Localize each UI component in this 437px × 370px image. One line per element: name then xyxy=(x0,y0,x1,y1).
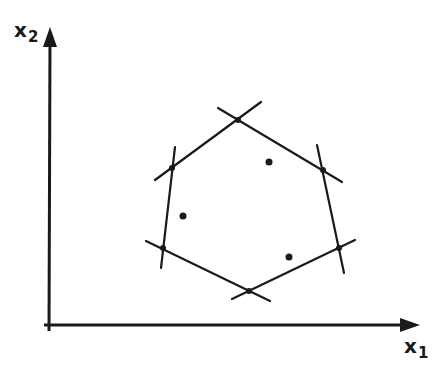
y-axis-label-main: x xyxy=(14,18,27,42)
vertex-top xyxy=(235,117,241,123)
vertex-upper-left xyxy=(169,165,175,171)
vertex-bottom xyxy=(246,288,252,294)
interior-point xyxy=(266,159,273,166)
y-axis-line xyxy=(49,39,50,331)
x-axis-arrowhead-icon xyxy=(400,318,420,332)
vertex-lower-left xyxy=(160,245,166,251)
y-axis-arrowhead-icon xyxy=(43,27,57,47)
interior-point xyxy=(286,254,293,261)
hexagon-edges xyxy=(146,102,355,301)
y-axis-label-subscript: 2 xyxy=(28,28,38,46)
x-axis-label-subscript: 1 xyxy=(418,344,428,362)
interior-points xyxy=(180,159,293,261)
x-axis-label: x1 xyxy=(404,334,428,358)
hexagon-vertices xyxy=(160,117,342,294)
hexagon-edge xyxy=(317,145,344,273)
x-axis-label-main: x xyxy=(404,334,417,358)
y-axis-label: x2 xyxy=(14,18,38,42)
interior-point xyxy=(180,213,187,220)
diagram-canvas xyxy=(0,0,437,370)
vertex-upper-right xyxy=(320,167,326,173)
vertex-lower-right xyxy=(336,245,342,251)
axes xyxy=(43,27,420,332)
